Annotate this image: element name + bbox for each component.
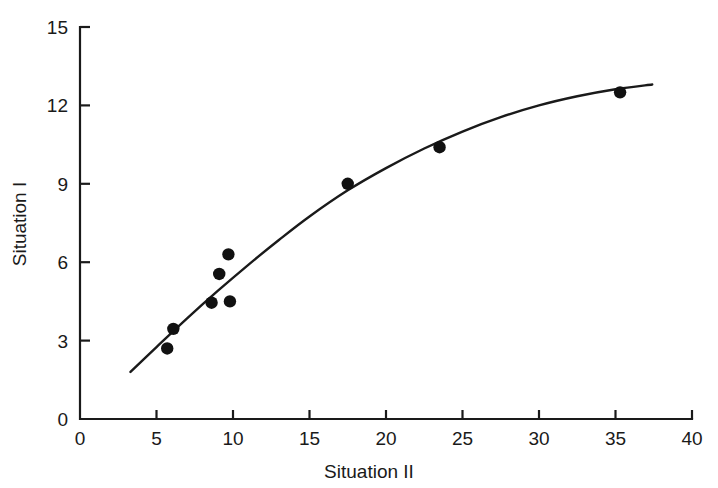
x-tick-label: 15 bbox=[299, 428, 320, 449]
data-point bbox=[433, 141, 445, 153]
x-tick-label: 5 bbox=[151, 428, 162, 449]
x-axis-ticks: 0510152025303540 bbox=[75, 410, 703, 449]
y-axis-ticks: 03691215 bbox=[47, 17, 90, 430]
axis-spine bbox=[80, 27, 692, 419]
y-axis-title: Situation I bbox=[9, 182, 30, 267]
y-tick-label: 3 bbox=[57, 331, 68, 352]
data-point bbox=[614, 86, 626, 98]
data-points bbox=[161, 86, 626, 355]
data-point bbox=[222, 248, 234, 260]
chart-figure: 0510152025303540 03691215 Situation II S… bbox=[0, 0, 718, 488]
x-tick-label: 0 bbox=[75, 428, 86, 449]
data-point bbox=[213, 268, 225, 280]
y-tick-label: 15 bbox=[47, 17, 68, 38]
y-tick-label: 6 bbox=[57, 252, 68, 273]
scatter-plot: 0510152025303540 03691215 Situation II S… bbox=[0, 0, 718, 488]
fitted-curve bbox=[130, 84, 652, 371]
x-tick-label: 25 bbox=[452, 428, 473, 449]
x-tick-label: 10 bbox=[222, 428, 243, 449]
x-tick-label: 20 bbox=[375, 428, 396, 449]
y-tick-label: 9 bbox=[57, 174, 68, 195]
x-axis-title: Situation II bbox=[324, 461, 414, 482]
x-tick-label: 35 bbox=[605, 428, 626, 449]
data-point bbox=[161, 342, 173, 354]
data-point bbox=[167, 323, 179, 335]
x-tick-label: 30 bbox=[528, 428, 549, 449]
data-point bbox=[205, 297, 217, 309]
data-point bbox=[224, 295, 236, 307]
y-tick-label: 0 bbox=[57, 409, 68, 430]
y-tick-label: 12 bbox=[47, 95, 68, 116]
data-point bbox=[342, 178, 354, 190]
x-tick-label: 40 bbox=[681, 428, 702, 449]
axes bbox=[80, 27, 692, 419]
